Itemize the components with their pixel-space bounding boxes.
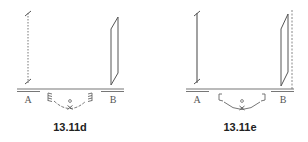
label-b: B: [110, 94, 117, 105]
label-a: A: [193, 94, 201, 105]
figure-13-11d: A B: [17, 11, 124, 110]
parallelogram-plane: [111, 17, 118, 85]
figure-13-11e: A B: [186, 10, 294, 110]
bracket-left-icon: [219, 94, 223, 101]
parallelogram-plane: [281, 14, 288, 86]
label-a: A: [24, 94, 32, 105]
label-b: B: [280, 94, 287, 105]
top-tick-mark: [25, 11, 31, 16]
cross-mark-icon: [68, 106, 73, 110]
center-circle-icon: [69, 100, 72, 103]
center-circle-icon: [241, 100, 244, 103]
spring-right-icon: [88, 93, 92, 102]
spring-left-icon: [48, 93, 52, 102]
caption-13-11d: 13.11d: [40, 121, 100, 133]
bracket-right-icon: [261, 94, 265, 101]
caption-13-11e: 13.11e: [210, 121, 270, 133]
